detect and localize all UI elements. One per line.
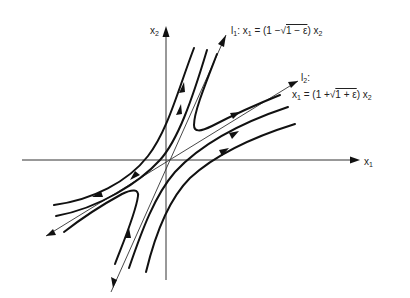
x1-axis-arrow-icon: [350, 157, 360, 164]
l1-arrow-top-icon: [218, 35, 226, 47]
x2-axis-label: x2: [150, 26, 159, 37]
x2-axis-arrow-icon: [163, 26, 170, 37]
l2-arrow-bottom-icon: [46, 229, 56, 236]
l1-equation-label: l1: x1 = (1 −√1 − ε) x2: [231, 26, 322, 37]
phase-portrait-diagram: [0, 0, 410, 298]
l2-arrow-top-icon: [288, 81, 298, 88]
trajectories-lower-right: [129, 107, 295, 272]
l2-name-label: l2:: [301, 73, 310, 84]
l2-equation-label: x1 = (1 +√1 + ε) x2: [292, 90, 372, 101]
x1-axis-label: x1: [364, 157, 373, 168]
axes: [22, 26, 360, 280]
